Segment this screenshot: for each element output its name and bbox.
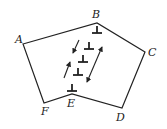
vertex-label-e: E bbox=[66, 97, 75, 110]
vertex-label-a: A bbox=[14, 33, 23, 46]
arrow-down-left-icon bbox=[73, 40, 79, 53]
arrow-double-icon bbox=[87, 47, 102, 82]
edge-dislocation-icon bbox=[92, 26, 102, 33]
vertex-label-b: B bbox=[91, 8, 100, 21]
grain-polygon bbox=[23, 23, 145, 108]
grain-diagram: ABCDEF bbox=[0, 0, 167, 129]
vertex-label-d: D bbox=[115, 111, 125, 124]
diagram-stage: ABCDEF bbox=[0, 0, 167, 129]
edge-dislocation-icon bbox=[73, 68, 83, 75]
edge-dislocation-icon bbox=[78, 55, 88, 62]
vertex-label-f: F bbox=[40, 105, 49, 118]
edge-dislocation-icon bbox=[84, 42, 94, 49]
edge-dislocation-icon bbox=[67, 84, 77, 91]
vertex-labels: ABCDEF bbox=[14, 8, 157, 124]
vertex-label-c: C bbox=[148, 46, 157, 59]
arrow-up-right-icon bbox=[64, 62, 70, 78]
